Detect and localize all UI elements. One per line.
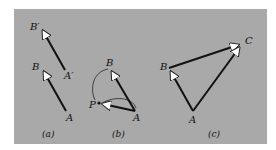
label-a: A — [65, 112, 73, 123]
vector-a-to-b — [112, 72, 135, 111]
label-b: B — [105, 57, 113, 68]
panel-c: B C A (c) — [159, 35, 253, 139]
caption-c: (c) — [208, 129, 221, 139]
label-b: B — [31, 61, 39, 72]
panel-a: B′ A′ B A (a) — [29, 21, 74, 139]
label-a: A — [132, 112, 140, 123]
label-a: A — [188, 114, 196, 125]
point-p — [97, 101, 100, 104]
vector-a-to-p — [103, 104, 135, 111]
label-p: P — [88, 99, 96, 110]
vector-diagram: B′ A′ B A (a) B P A (b) B C A (c) — [0, 0, 276, 150]
label-c: C — [245, 35, 253, 46]
arc-b-to-p — [93, 69, 108, 100]
label-b: B — [159, 61, 167, 72]
caption-a: (a) — [42, 129, 55, 139]
label-a-prime: A′ — [63, 70, 74, 81]
label-b-prime: B′ — [29, 21, 40, 32]
vector-a-to-b — [44, 72, 66, 111]
caption-b: (b) — [112, 129, 125, 139]
vector-a-to-b — [171, 72, 193, 111]
panel-b: B P A (b) — [88, 57, 140, 139]
vector-a-prime-to-b-prime — [43, 31, 65, 70]
